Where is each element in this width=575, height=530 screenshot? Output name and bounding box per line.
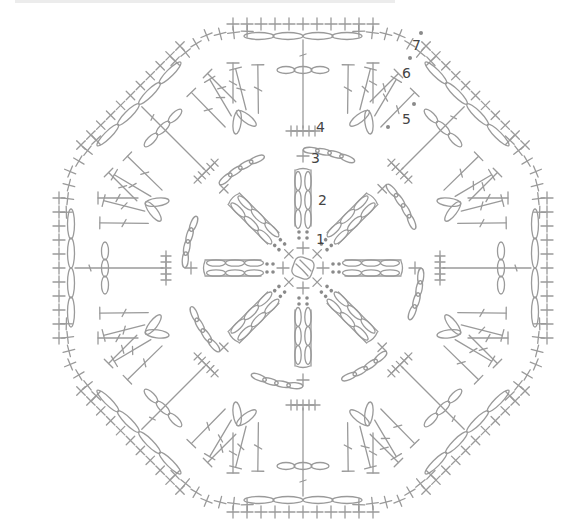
round-label-2: 2: [318, 193, 327, 207]
crochet-octagon-chart: [0, 0, 575, 530]
round-label-3: 3: [311, 151, 320, 165]
round-label-6: 6: [402, 66, 411, 80]
round-label-7: 7: [412, 38, 421, 52]
round-label-1: 1: [316, 232, 325, 246]
round-label-4: 4: [316, 120, 325, 134]
round-label-5: 5: [402, 112, 411, 126]
